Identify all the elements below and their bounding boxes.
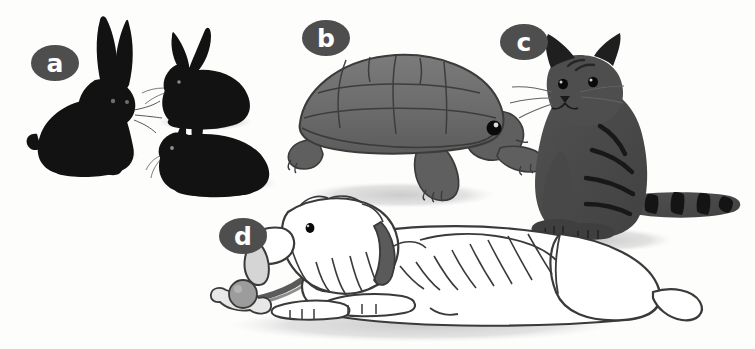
animal-figure-panel: a b c d	[0, 0, 755, 349]
dog-eye	[306, 223, 315, 233]
dog-ball	[229, 280, 257, 308]
label-badge-a[interactable]: a	[31, 45, 79, 81]
label-badge-d[interactable]: d	[219, 218, 267, 254]
cat-eye-left	[558, 79, 568, 89]
label-badge-c[interactable]: c	[500, 24, 548, 60]
animal-illustration-canvas	[0, 0, 755, 349]
label-badge-b[interactable]: b	[302, 20, 350, 56]
tortoise-eye	[487, 121, 502, 136]
cat-eye-right	[588, 77, 598, 87]
